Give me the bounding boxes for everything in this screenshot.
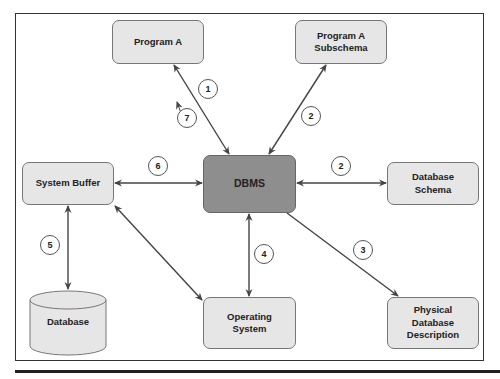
label-line: Database	[412, 317, 454, 328]
node-program-a-label: Program A	[134, 36, 182, 48]
step-badge-7: 7	[177, 108, 197, 128]
node-database-schema-label: Database Schema	[412, 171, 454, 196]
node-database-label: Database	[30, 316, 106, 327]
step-badge-4: 4	[254, 244, 274, 264]
node-program-a-subschema: Program A Subschema	[295, 20, 387, 64]
step-badge-2-subschema: 2	[301, 106, 321, 126]
step-badge-1: 1	[198, 79, 218, 99]
label-line: Physical	[414, 304, 453, 315]
node-program-a-subschema-label: Program A Subschema	[314, 30, 367, 55]
node-physical-database-description: Physical Database Description	[387, 297, 479, 349]
label-line: Subschema	[314, 42, 367, 53]
label-line: Program A	[317, 30, 365, 41]
label-line: Database	[412, 171, 454, 182]
node-operating-system: Operating System	[203, 297, 296, 349]
edge-dbms-physical	[287, 213, 398, 296]
step-badge-2-schema: 2	[331, 156, 351, 176]
label-line: System	[233, 323, 267, 334]
label-line: Schema	[415, 184, 451, 195]
edge-buffer-os	[115, 206, 202, 300]
node-database-schema: Database Schema	[387, 162, 479, 205]
node-physical-database-description-label: Physical Database Description	[407, 304, 459, 341]
node-program-a: Program A	[112, 20, 204, 64]
label-line: Operating	[227, 311, 272, 322]
step-badge-3: 3	[353, 240, 373, 260]
label-line: Description	[407, 329, 459, 340]
node-system-buffer-label: System Buffer	[36, 177, 100, 189]
node-dbms-label: DBMS	[234, 177, 265, 191]
node-operating-system-label: Operating System	[227, 311, 272, 336]
step-badge-6: 6	[148, 156, 168, 176]
node-dbms: DBMS	[203, 155, 296, 213]
step-badge-5: 5	[40, 235, 60, 255]
node-system-buffer: System Buffer	[22, 162, 114, 205]
